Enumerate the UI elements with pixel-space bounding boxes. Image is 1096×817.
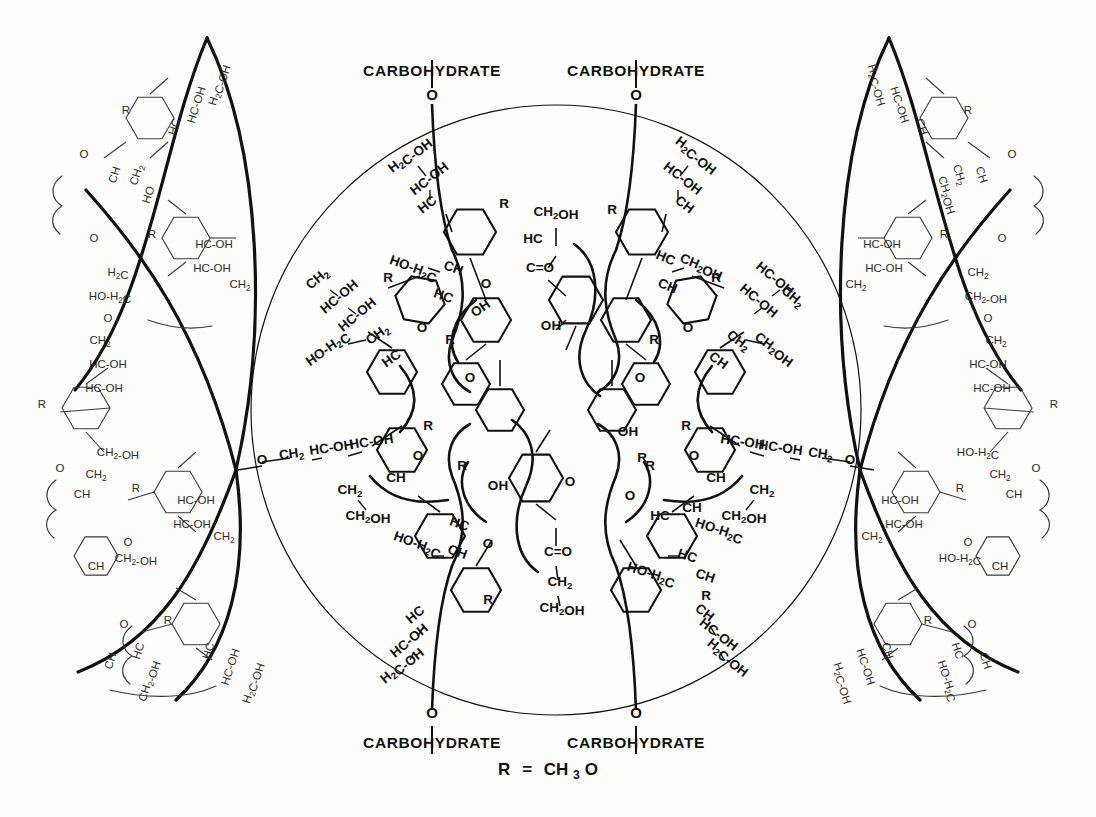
atom-label: HC [448, 513, 472, 534]
atom-label: HC [432, 285, 456, 306]
atom-label: O [465, 370, 476, 385]
bond-line [60, 408, 110, 412]
atom-label: CH [992, 560, 1009, 572]
chain-curve [110, 686, 216, 696]
atom-label: CH2OH [345, 508, 390, 526]
atom-label: HC-OH [881, 494, 919, 506]
atom-label: O [625, 488, 636, 503]
atom-label: CH2 [213, 530, 235, 545]
inner-atom-labels-layer: H2C-OHHC-OHHCRCH2OHHCC=OOHOHH2C-OHHC-OHC… [257, 133, 856, 688]
atom-label: R [956, 482, 964, 494]
atom-label: CH2 [303, 264, 333, 293]
atom-label: CH [88, 560, 105, 572]
atom-label: O [968, 618, 977, 630]
atom-label: R [457, 458, 467, 473]
atom-label: O [683, 320, 694, 335]
carbohydrate-o-bottom-left: O [426, 704, 438, 721]
lens-arc-left-inner-a [86, 190, 236, 470]
atom-label: CH [974, 165, 991, 185]
chain-curve [664, 476, 742, 502]
carbohydrate-label-top-left: CARBOHYDRATE [363, 62, 501, 79]
atom-label: HC [130, 641, 147, 661]
atom-label: R [164, 614, 172, 626]
legend-tail: O [585, 760, 598, 779]
atom-label: O [984, 312, 993, 324]
atom-label: O [689, 448, 700, 463]
atom-label: HC-OH [85, 382, 123, 394]
atom-label: HC-OH [173, 518, 211, 530]
atom-label: CH [706, 470, 726, 485]
atom-label: CH [694, 566, 717, 586]
chain-curve [1034, 176, 1043, 234]
atom-label: HC [166, 117, 183, 137]
bond-line [150, 142, 168, 158]
atom-label: CH [914, 117, 931, 137]
cyclohexane-ring [622, 363, 670, 405]
atom-label: CH [880, 641, 897, 661]
central-boundary-circle [251, 105, 861, 715]
bond-line [908, 262, 926, 276]
heavy-curves-layer [47, 176, 1050, 696]
atom-label: C=O [544, 544, 572, 559]
atom-label: O [257, 452, 268, 467]
bond-line [536, 430, 550, 452]
atom-label: CH2 [967, 266, 989, 281]
atom-label: H2C [107, 266, 128, 281]
atom-label: R [940, 228, 948, 240]
cyclohexane-ring [154, 471, 202, 513]
atom-label: R [445, 332, 455, 347]
atom-label: CH [1006, 488, 1023, 500]
atom-label: R [423, 418, 433, 433]
atom-label: HC [650, 508, 670, 523]
atom-label: OH [488, 478, 508, 493]
atom-label: O [845, 452, 856, 467]
atom-label: O [90, 232, 99, 244]
cyclohexane-ring [892, 471, 940, 513]
atom-label: CH2 [750, 482, 776, 499]
atom-label: HC-OH [193, 262, 231, 274]
atom-label: R [681, 418, 691, 433]
atom-label: O [124, 536, 133, 548]
atom-label: R [964, 104, 972, 116]
atom-label: HC [950, 641, 967, 661]
bond-line [566, 326, 576, 350]
atom-label: R [38, 398, 46, 410]
atom-label: O [481, 276, 492, 291]
atom-label: R [649, 332, 659, 347]
atom-label: CH [106, 165, 123, 185]
atom-label: O [104, 312, 113, 324]
legend-group: R = CH 3 O [498, 760, 598, 783]
atom-label: HC-OH [863, 238, 901, 250]
legend-formula: R = CH 3 O [498, 760, 598, 783]
atom-label: HC-OH [195, 238, 233, 250]
bond-line [626, 258, 642, 300]
atom-label: HC-OH [973, 382, 1011, 394]
bond-line [548, 280, 566, 296]
chain-curve [370, 476, 448, 502]
atom-label: HC [523, 231, 543, 246]
atom-label: O [1008, 148, 1017, 160]
atom-label: HO-H2C [303, 328, 354, 372]
chain-curve [47, 480, 56, 538]
bond-line [790, 458, 800, 460]
bond-line [418, 496, 440, 512]
atom-label: R [132, 482, 140, 494]
carbohydrate-label-bottom-right: CARBOHYDRATE [567, 734, 705, 751]
atom-label: HC-OH [969, 358, 1007, 370]
atom-label: CH [682, 500, 702, 515]
atom-label: HC-OH [219, 647, 242, 687]
bond-line [150, 78, 168, 94]
chain-curve [698, 366, 712, 432]
atom-label: R [607, 202, 617, 217]
atom-label: H2C-OH [863, 63, 890, 108]
chain-curve [53, 176, 62, 234]
bond-line [536, 504, 556, 520]
atom-label: CH2 [229, 278, 251, 293]
atom-label: R [148, 228, 156, 240]
atom-label: C=O [526, 260, 554, 275]
atom-label: O [56, 462, 65, 474]
atom-label: H2C-OH [829, 661, 856, 706]
atom-label: O [565, 474, 576, 489]
chain-curve [880, 686, 986, 696]
atom-label: OH [618, 424, 638, 439]
